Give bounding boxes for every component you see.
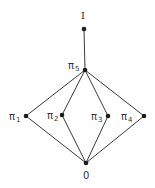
lattice-diagram: I π 5 π 1 π 2 π 3 π 4 0 xyxy=(0,0,155,188)
label-pi5-sub: 5 xyxy=(75,65,79,73)
label-pi3: π xyxy=(91,111,97,122)
label-pi4-sub: 4 xyxy=(128,116,133,124)
node-pi1 xyxy=(24,114,29,119)
edge-pi5-pi1 xyxy=(26,70,85,116)
label-I: I xyxy=(81,10,85,21)
edges xyxy=(26,29,144,163)
edge-pi5-pi2 xyxy=(62,70,85,115)
label-zero: 0 xyxy=(83,170,89,181)
node-I xyxy=(82,27,87,32)
edge-pi5-pi3 xyxy=(85,70,108,116)
label-pi2-sub: 2 xyxy=(54,115,58,123)
edge-pi1-zero xyxy=(26,116,86,163)
edge-pi5-pi4 xyxy=(85,70,144,116)
label-pi1-sub: 1 xyxy=(16,116,20,124)
node-pi4 xyxy=(142,114,147,119)
node-pi3 xyxy=(106,114,111,119)
label-pi4: π xyxy=(121,111,127,122)
node-pi2 xyxy=(60,113,65,118)
label-pi3-sub: 3 xyxy=(98,116,102,124)
edge-pi4-zero xyxy=(86,116,144,163)
edge-pi3-zero xyxy=(86,116,108,163)
label-pi1: π xyxy=(9,111,15,122)
labels: I π 5 π 1 π 2 π 3 π 4 0 xyxy=(9,10,133,181)
node-zero xyxy=(84,161,89,166)
edge-I-pi5 xyxy=(84,29,85,70)
label-pi5: π xyxy=(68,60,74,71)
label-pi2: π xyxy=(47,110,53,121)
node-pi5 xyxy=(83,68,88,73)
edge-pi2-zero xyxy=(62,115,86,163)
nodes xyxy=(24,27,147,166)
